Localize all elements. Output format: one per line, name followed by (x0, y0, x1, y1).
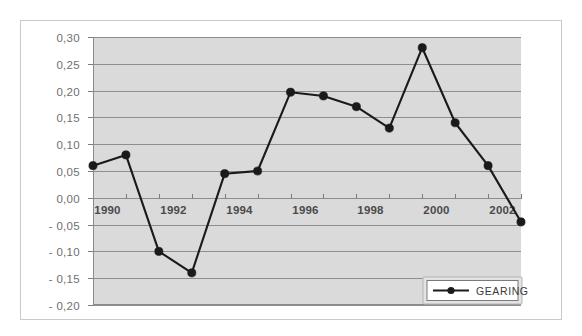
data-point-marker (155, 247, 163, 255)
data-point-marker (221, 170, 229, 178)
data-point-marker (89, 162, 97, 170)
y-axis-tick-label: 0,25 (56, 59, 80, 71)
y-axis-tick-label: - 0,10 (49, 246, 80, 258)
data-point-marker (418, 44, 426, 52)
y-axis-tick-label: 0,15 (56, 112, 80, 124)
legend-label-gearing: GEARING (476, 285, 529, 297)
y-axis-tick-label: - 0,20 (49, 300, 80, 312)
y-axis-tick-label: - 0,05 (49, 220, 80, 232)
chart-legend[interactable]: GEARING (423, 277, 529, 304)
data-point-marker (352, 103, 360, 111)
data-point-marker (484, 162, 492, 170)
data-point-marker (122, 151, 130, 159)
data-point-marker (254, 167, 262, 175)
y-axis-labels-group: 0,300,250,200,150,100,050,00- 0,05- 0,10… (49, 32, 80, 312)
data-point-marker (188, 269, 196, 277)
x-axis-tick-label: 2000 (423, 204, 449, 216)
x-axis-tick-label: 1998 (357, 204, 384, 216)
y-axis-tick-label: 0,05 (56, 166, 80, 178)
legend-marker-swatch (447, 287, 454, 294)
y-axis-tick-label: 0,20 (56, 86, 80, 98)
x-axis-tick-label: 1990 (94, 204, 120, 216)
x-axis-tick-label: 1996 (292, 204, 318, 216)
x-axis-tick-label: 1992 (160, 204, 186, 216)
y-axis-tick-label: 0,30 (56, 32, 80, 44)
x-axis-tick-label: 1994 (226, 204, 253, 216)
gearing-line-chart: 0,300,250,200,150,100,050,00- 0,05- 0,10… (0, 0, 582, 336)
data-point-marker (385, 124, 393, 132)
y-axis-tick-label: 0,00 (56, 193, 80, 205)
data-point-marker (319, 92, 327, 100)
data-point-marker (451, 119, 459, 127)
data-point-marker (286, 88, 294, 96)
data-point-marker (517, 218, 525, 226)
y-tick-marks-group (88, 38, 93, 306)
y-axis-tick-label: 0,10 (56, 139, 80, 151)
y-axis-tick-label: - 0,15 (49, 273, 80, 285)
